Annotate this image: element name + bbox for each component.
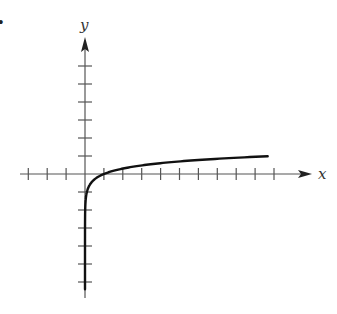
x-axis-label: x (318, 165, 327, 183)
log-graph: • y x (0, 0, 337, 314)
bullet-marker: • (0, 14, 4, 31)
axes (20, 37, 312, 298)
function-curve (85, 156, 268, 289)
y-axis-label: y (79, 16, 89, 34)
